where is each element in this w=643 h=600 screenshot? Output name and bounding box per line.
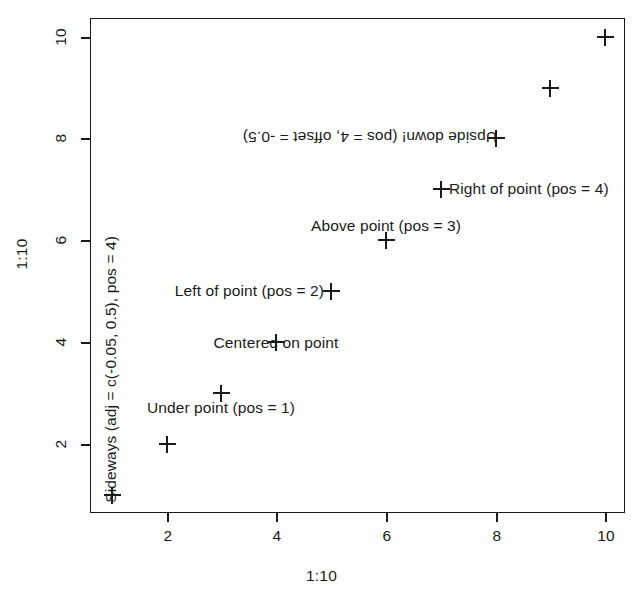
annotation-above-point: Above point (pos = 3) xyxy=(311,218,461,234)
x-tick-mark xyxy=(167,513,169,522)
y-tick-mark xyxy=(81,342,90,344)
x-tick-mark xyxy=(386,513,388,522)
annotation-under-point: Under point (pos = 1) xyxy=(147,400,295,416)
x-axis-title: 1:10 xyxy=(0,567,643,585)
x-tick-label: 2 xyxy=(148,527,188,545)
plus-icon-vertical xyxy=(440,181,442,198)
x-tick-label: 10 xyxy=(586,527,626,545)
annotation-centered-on-point: Centered on point xyxy=(214,335,339,351)
annotation-left-of-point: Left of point (pos = 2) xyxy=(175,283,324,299)
x-tick-mark xyxy=(276,513,278,522)
y-tick-label: 2 xyxy=(52,429,70,459)
x-tick-mark xyxy=(496,513,498,522)
y-tick-label: 4 xyxy=(52,327,70,357)
y-tick-mark xyxy=(81,240,90,242)
y-axis-title: 1:10 xyxy=(13,174,31,334)
x-tick-label: 4 xyxy=(257,527,297,545)
annotation-sideways: Sideways (adj = c(-0.05, 0.5), pos = 4) xyxy=(103,236,119,503)
x-tick-label: 6 xyxy=(367,527,407,545)
y-tick-mark xyxy=(81,37,90,39)
plus-icon-vertical xyxy=(330,283,332,300)
plus-icon-vertical xyxy=(385,232,387,249)
y-tick-mark xyxy=(81,444,90,446)
plus-icon-vertical xyxy=(166,436,168,453)
scatter-plot-figure: 2 4 6 8 10 2 4 6 8 10 1:10 1:10 xyxy=(0,0,643,600)
plus-icon-vertical xyxy=(549,80,551,97)
y-tick-label: 8 xyxy=(52,123,70,153)
x-tick-mark xyxy=(605,513,607,522)
plot-panel-border xyxy=(90,18,625,513)
y-tick-label: 10 xyxy=(52,22,70,52)
y-tick-mark xyxy=(81,138,90,140)
x-tick-label: 8 xyxy=(477,527,517,545)
y-tick-label: 6 xyxy=(52,225,70,255)
plus-icon-vertical xyxy=(604,29,606,46)
annotation-right-of-point: Right of point (pos = 4) xyxy=(449,181,609,197)
annotation-upside-down: Upside down! (pos = 4, offset = -0.5) xyxy=(243,129,497,145)
